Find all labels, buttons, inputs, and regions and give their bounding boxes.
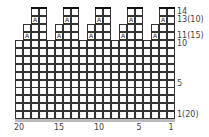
chart-cell [87,72,95,80]
chart-cell [127,24,135,32]
chart-cell [127,8,135,16]
chart-cell [71,32,79,40]
chart-cell [119,111,127,119]
chart-cell [31,8,39,16]
chart-cell [15,111,23,119]
chart-cell [159,8,167,16]
chart-cell [39,56,47,64]
chart-cell [159,64,167,72]
chart-cell [143,95,151,103]
chart-cell [39,32,47,40]
chart-cell [167,103,175,111]
chart-cell [87,95,95,103]
chart-cell: A [159,16,167,24]
chart-cell [119,103,127,111]
chart-cell [151,64,159,72]
chart-cell [15,87,23,95]
chart-cell [55,80,63,88]
chart-cell [135,8,143,16]
chart-cell [63,87,71,95]
chart-cell [127,48,135,56]
chart-cell [167,40,175,48]
chart-cell [23,111,31,119]
chart-cell [79,64,87,72]
chart-cell [31,87,39,95]
chart-cell [159,40,167,48]
chart-cell [55,72,63,80]
chart-cell [39,103,47,111]
chart-cell [103,40,111,48]
chart-cell [135,95,143,103]
chart-cell [55,87,63,95]
chart-cell [95,72,103,80]
chart-cell [55,56,63,64]
chart-cell [47,80,55,88]
chart-cell [167,8,175,16]
chart-cell [167,64,175,72]
chart-cell [111,56,119,64]
chart-cell [159,103,167,111]
chart-cell [143,103,151,111]
chart-cell [119,40,127,48]
bind-off-line [31,7,47,9]
bind-off-line [95,7,111,9]
chart-cell [55,111,63,119]
chart-cell [159,111,167,119]
chart-cell [135,111,143,119]
chart-cell: A [127,16,135,24]
chart-cell [23,95,31,103]
chart-cell [55,40,63,48]
chart-cell [63,103,71,111]
chart-cell [63,72,71,80]
chart-cell [111,95,119,103]
chart-cell [151,40,159,48]
chart-cell [87,24,95,32]
chart-cell [47,40,55,48]
chart-cell [15,48,23,56]
chart-cell [95,64,103,72]
bind-off-line [159,7,175,9]
chart-cell [167,87,175,95]
chart-cell [79,56,87,64]
chart-cell [79,80,87,88]
chart-cell [167,72,175,80]
chart-cell [47,95,55,103]
chart-cell [143,72,151,80]
chart-cell [103,24,111,32]
chart-cell [47,103,55,111]
chart-cell [151,95,159,103]
chart-cell: A [55,32,63,40]
chart-cell [39,72,47,80]
chart-cell [31,111,39,119]
chart-cell [95,32,103,40]
bind-off-line [63,7,79,9]
chart-cell [151,56,159,64]
chart-cell [143,56,151,64]
chart-cell [167,24,175,32]
chart-cell [167,80,175,88]
chart-cell [167,48,175,56]
knitting-chart: AAAAAAAAAA1413(10)11(15)1051(20)20151051 [0,0,209,137]
decrease-symbol-icon: A [120,33,126,39]
chart-cell [127,95,135,103]
decrease-symbol-icon: A [160,17,166,23]
chart-cell [135,80,143,88]
chart-cell [15,103,23,111]
chart-cell [127,32,135,40]
chart-cell [31,24,39,32]
chart-cell: A [151,32,159,40]
chart-cell: A [87,32,95,40]
chart-cell [111,111,119,119]
chart-cell [159,72,167,80]
decrease-symbol-icon: A [96,17,102,23]
chart-cell [127,40,135,48]
chart-cell [63,56,71,64]
chart-cell [111,80,119,88]
chart-cell [23,80,31,88]
chart-cell [151,24,159,32]
chart-cell [111,64,119,72]
chart-cell [95,95,103,103]
chart-cell [31,64,39,72]
chart-cell [23,48,31,56]
cast-on-edge [15,119,175,122]
